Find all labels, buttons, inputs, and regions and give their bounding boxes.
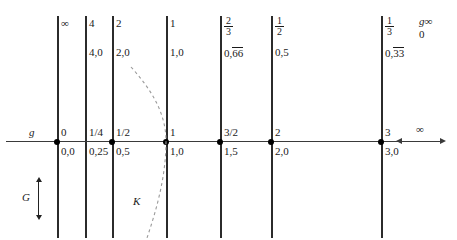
- top-label-3: 1 3: [385, 16, 394, 37]
- top-decimal-3: 0,33: [385, 47, 404, 60]
- axis-dot-3-2: [217, 139, 223, 145]
- axis-value-1: 1: [170, 127, 176, 139]
- g-measure-label: G: [22, 192, 30, 204]
- top-label-1-4: 4: [89, 18, 95, 30]
- top-decimal-2: 0,5: [275, 47, 289, 59]
- axis-dot-1-2: [109, 139, 115, 145]
- axis-label-infinity: ∞: [416, 124, 424, 136]
- grid-line-0: [57, 16, 59, 238]
- grid-line-1-2: [112, 16, 114, 238]
- grid-line-2: [271, 16, 273, 238]
- axis-value-3: 3: [385, 127, 391, 139]
- axis-arrowhead-right: [440, 138, 446, 144]
- axis-dot-2: [268, 139, 274, 145]
- axis-value-1-2: 1/2: [116, 127, 130, 139]
- below-value-1-2: 0,5: [116, 146, 130, 158]
- top-decimal-3-2: 0,66: [224, 47, 243, 60]
- fraction-numerator: 2: [224, 16, 233, 26]
- axis-dot-3: [378, 139, 384, 145]
- axis-arrowhead-left: [396, 138, 402, 144]
- top-label-1-2: 2: [116, 18, 122, 30]
- top-label-0: ∞: [61, 18, 69, 30]
- fraction-denominator: 2: [275, 26, 284, 37]
- axis-value-0: 0: [61, 127, 67, 139]
- top-label-1: 1: [170, 18, 176, 30]
- g-infinity-value: 0: [419, 29, 425, 41]
- repeating-digits: 33: [393, 47, 404, 59]
- fraction-one-third: 1 3: [385, 16, 394, 37]
- top-value-0: ∞: [61, 17, 69, 29]
- top-value-1-2: 2: [116, 17, 122, 29]
- horizontal-axis: [6, 141, 442, 142]
- top-value-1-4: 4: [89, 17, 95, 29]
- g-measure-arrowhead-up: [36, 177, 42, 182]
- repeating-digits: 66: [232, 47, 243, 59]
- grid-line-1-4: [85, 16, 87, 238]
- fraction-denominator: 3: [224, 26, 233, 37]
- fraction-two-thirds: 2 3: [224, 16, 233, 37]
- axis-dot-1: [163, 139, 169, 145]
- below-value-1-4: 0,25: [89, 146, 108, 158]
- axis-label-g: g: [29, 127, 35, 139]
- top-label-2: 1 2: [275, 16, 284, 37]
- fraction-denominator: 3: [385, 26, 394, 37]
- grid-line-1: [166, 16, 168, 238]
- below-value-3: 3,0: [385, 146, 399, 158]
- top-decimal-1-2: 2,0: [116, 47, 130, 59]
- axis-dot-0: [54, 139, 60, 145]
- g-infinity-label: g∞: [419, 16, 432, 28]
- top-decimal-1-4: 4,0: [89, 47, 103, 59]
- g-measure-arrowhead-down: [36, 215, 42, 220]
- below-value-0: 0,0: [61, 146, 75, 158]
- below-value-1: 1,0: [170, 146, 184, 158]
- figure-canvas: Κ ∞ 4 2 1 2 3 1 2 1 3 4,0 2,0 1,0 0,66 0…: [0, 0, 457, 240]
- fraction-numerator: 1: [385, 16, 394, 26]
- axis-value-3-2: 3/2: [224, 127, 238, 139]
- top-decimal-1: 1,0: [170, 47, 184, 59]
- g-measure-bar: [38, 181, 39, 216]
- top-label-3-2: 2 3: [224, 16, 233, 37]
- below-value-2: 2,0: [275, 146, 289, 158]
- below-value-3-2: 1,5: [224, 146, 238, 158]
- top-value-1: 1: [170, 17, 176, 29]
- fraction-numerator: 1: [275, 16, 284, 26]
- curve-kappa-label: Κ: [133, 196, 140, 208]
- grid-line-3: [381, 16, 383, 238]
- fraction-one-half: 1 2: [275, 16, 284, 37]
- g-infinity-symbol: g∞: [419, 15, 432, 27]
- grid-line-3-2: [220, 16, 222, 238]
- axis-value-2: 2: [275, 127, 281, 139]
- axis-value-1-4: 1/4: [89, 127, 103, 139]
